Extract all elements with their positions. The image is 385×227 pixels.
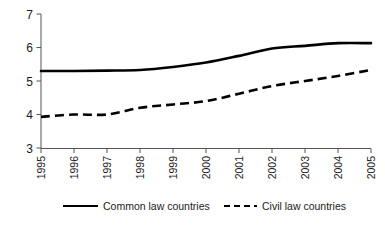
legend-label-civil-law: Civil law countries [262,200,346,212]
x-tick-label: 1997 [101,156,113,180]
legend-label-common-law: Common law countries [103,200,210,212]
x-tick-label: 1996 [68,156,80,180]
series-line-common-law [41,43,371,71]
x-tick-label: 1995 [35,156,47,180]
chart-legend: Common law countries Civil law countries [63,200,346,212]
y-tick-marks [37,14,42,148]
chart-canvas: 7 6 5 4 3 1995 1996 1997 1998 1999 [0,0,385,227]
y-tick-label: 7 [26,8,33,22]
x-tick-label: 2004 [332,156,344,180]
x-tick-label: 2005 [365,156,377,180]
x-tick-label: 2003 [299,156,311,180]
x-tick-marks [41,149,371,154]
series-line-civil-law [41,70,371,117]
line-chart: 7 6 5 4 3 1995 1996 1997 1998 1999 [0,0,385,227]
y-tick-label: 3 [26,142,33,156]
x-tick-label: 2000 [200,156,212,180]
x-tick-label: 2001 [233,156,245,180]
y-tick-label: 6 [26,41,33,55]
x-tick-label: 1999 [167,156,179,180]
y-tick-label: 4 [26,108,33,122]
y-tick-labels: 7 6 5 4 3 [26,8,33,156]
x-tick-label: 2002 [266,156,278,180]
x-tick-label: 1998 [134,156,146,180]
y-tick-label: 5 [26,75,33,89]
x-tick-labels: 1995 1996 1997 1998 1999 2000 2001 2002 … [35,156,377,180]
